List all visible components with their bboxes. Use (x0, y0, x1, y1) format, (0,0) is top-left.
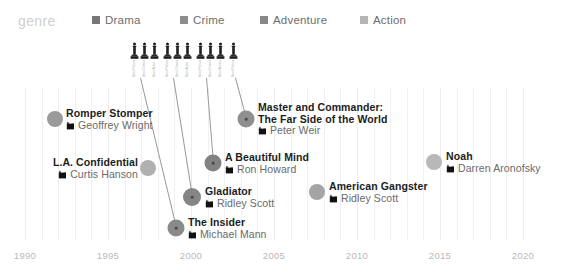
award-category-label: Best Picture (163, 60, 172, 77)
oscar-statuette-icon (216, 42, 225, 59)
movie-director: Ridley Scott (329, 193, 428, 205)
data-point-label: GladiatorRidley Scott (205, 186, 274, 209)
award-cluster[interactable]: Best Picture (229, 42, 238, 77)
legend-item-label: Crime (193, 14, 225, 26)
data-point-center (191, 196, 194, 199)
data-point-dot[interactable] (140, 160, 156, 176)
oscar-statuette-icon (183, 42, 192, 59)
movie-title: Gladiator (205, 186, 274, 198)
data-point-center (175, 227, 178, 230)
gridline (390, 88, 391, 240)
director-name: Ron Howard (237, 164, 296, 176)
legend-swatch-icon (260, 16, 268, 24)
director-clapperboard-icon (58, 170, 67, 179)
x-axis-tick-label: 2000 (180, 250, 202, 261)
director-clapperboard-icon (258, 126, 267, 135)
legend-swatch-icon (92, 16, 100, 24)
gridline (42, 88, 43, 240)
legend-item-action[interactable]: Action (360, 14, 406, 26)
award-item[interactable]: Best Picture (163, 42, 172, 77)
oscar-statuette-icon (130, 42, 139, 59)
oscar-statuette-icon (140, 42, 149, 59)
award-item[interactable]: Best Actor (150, 42, 159, 77)
award-item[interactable]: Best Director (206, 42, 215, 77)
award-item[interactable]: Best Director (140, 42, 149, 77)
award-cluster[interactable]: Best PictureBest DirectorBest Actor (163, 42, 192, 77)
legend-item-label: Drama (105, 14, 141, 26)
gridline (25, 88, 26, 240)
x-axis-tick-label: 2015 (429, 250, 451, 261)
oscar-statuette-icon (163, 42, 172, 59)
chart-canvas: genre DramaCrimeAdventureAction Best Pic… (0, 0, 586, 277)
movie-director: Ron Howard (225, 164, 309, 176)
award-item[interactable]: Best Picture (130, 42, 139, 77)
oscar-statuette-icon (206, 42, 215, 59)
award-category-label: Best Actor (150, 60, 159, 77)
legend-item-label: Adventure (273, 14, 327, 26)
movie-director: Darren Aronofsky (446, 163, 541, 175)
director-name: Ridley Scott (341, 193, 398, 205)
movie-title: Master and Commander: (258, 102, 387, 114)
legend-item-label: Action (373, 14, 406, 26)
award-category-label: Best Picture (229, 60, 238, 77)
data-point-label: American GangsterRidley Scott (329, 181, 428, 204)
award-cluster[interactable]: Best PictureBest DirectorBest Actor (130, 42, 159, 77)
movie-director: Ridley Scott (205, 198, 274, 210)
x-axis-tick-label: 2010 (346, 250, 368, 261)
award-item[interactable]: Best Actress (216, 42, 225, 77)
legend-item-adventure[interactable]: Adventure (260, 14, 327, 26)
gridline (158, 88, 159, 240)
data-point-center (245, 118, 248, 121)
award-item[interactable]: Best Picture (196, 42, 205, 77)
award-category-label: Best Picture (130, 60, 139, 77)
director-name: Ridley Scott (217, 198, 274, 210)
oscar-statuette-icon (229, 42, 238, 59)
movie-title: A Beautiful Mind (225, 152, 309, 164)
x-axis-tick-label: 1990 (14, 250, 36, 261)
data-point-dot[interactable] (426, 154, 442, 170)
x-axis-tick-label: 2020 (512, 250, 534, 261)
movie-title: Romper Stomper (66, 108, 153, 120)
legend-item-crime[interactable]: Crime (180, 14, 225, 26)
movie-director: Michael Mann (188, 229, 267, 241)
director-clapperboard-icon (66, 121, 75, 130)
award-item[interactable]: Best Picture (229, 42, 238, 77)
gridline (423, 88, 424, 240)
award-category-label: Best Director (206, 60, 215, 77)
award-category-label: Best Actor (183, 60, 192, 77)
legend-title: genre (18, 13, 56, 29)
director-name: Geoffrey Wright (78, 120, 153, 132)
movie-title: L.A. Confidential (53, 157, 138, 169)
award-item[interactable]: Best Director (173, 42, 182, 77)
director-name: Darren Aronofsky (458, 163, 541, 175)
data-point-dot[interactable] (309, 184, 325, 200)
award-category-label: Best Director (140, 60, 149, 77)
director-clapperboard-icon (188, 230, 197, 239)
director-clapperboard-icon (329, 194, 338, 203)
award-item[interactable]: Best Actor (183, 42, 192, 77)
movie-director: Geoffrey Wright (66, 120, 153, 132)
data-point-label: Romper StomperGeoffrey Wright (66, 108, 153, 131)
data-point-label: The InsiderMichael Mann (188, 217, 267, 240)
movie-director: Peter Weir (258, 125, 387, 137)
legend-item-drama[interactable]: Drama (92, 14, 141, 26)
director-name: Curtis Hanson (70, 169, 138, 181)
award-category-label: Best Picture (196, 60, 205, 77)
award-cluster[interactable]: Best PictureBest DirectorBest Actress (196, 42, 225, 77)
award-category-label: Best Actress (216, 60, 225, 77)
data-point-label: Master and Commander:The Far Side of the… (258, 102, 387, 137)
oscar-statuette-icon (196, 42, 205, 59)
award-category-label: Best Director (173, 60, 182, 77)
gridline (407, 88, 408, 240)
movie-title: Noah (446, 151, 541, 163)
leader-line (173, 78, 193, 197)
x-axis-tick-label: 1995 (97, 250, 119, 261)
legend-swatch-icon (180, 16, 188, 24)
data-point-label: A Beautiful MindRon Howard (225, 152, 309, 175)
oscar-statuette-icon (173, 42, 182, 59)
x-axis-tick-label: 2005 (263, 250, 285, 261)
data-point-dot[interactable] (47, 111, 63, 127)
data-point-center (212, 162, 215, 165)
director-name: Peter Weir (270, 125, 320, 137)
movie-title: American Gangster (329, 181, 428, 193)
